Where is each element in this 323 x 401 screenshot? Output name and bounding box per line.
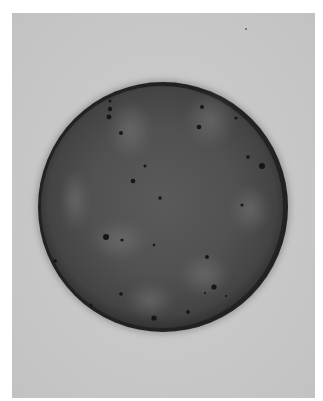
colony [158, 196, 162, 200]
colony [200, 105, 204, 109]
colony [151, 315, 156, 320]
colony [119, 292, 123, 296]
colony [53, 259, 57, 263]
colony [205, 255, 209, 259]
colony [225, 295, 227, 297]
colony [259, 163, 265, 169]
colony [234, 116, 237, 119]
colony [103, 234, 109, 240]
colony [246, 155, 250, 159]
colony [109, 100, 112, 103]
colony [89, 303, 92, 306]
colony [107, 115, 112, 120]
colony [245, 28, 247, 30]
colony [204, 292, 206, 294]
colony [144, 165, 147, 168]
colony [186, 310, 190, 314]
colony [197, 125, 202, 130]
colony [108, 107, 112, 111]
colony [131, 179, 136, 184]
colony [119, 131, 123, 135]
colony [211, 284, 216, 289]
colony [153, 244, 156, 247]
colony [120, 238, 123, 241]
petri-dish-figure [0, 0, 323, 401]
colony [240, 203, 243, 206]
